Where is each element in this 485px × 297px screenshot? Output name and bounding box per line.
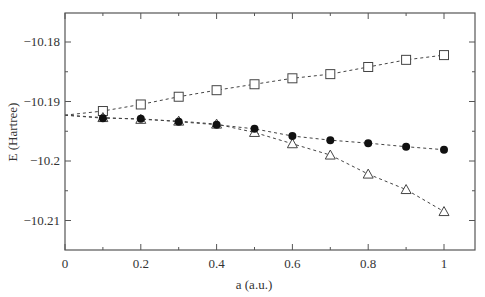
square-marker <box>288 74 297 83</box>
y-tick-label: −10.2 <box>30 153 60 168</box>
x-tick-label: 0.8 <box>360 256 376 271</box>
energy-vs-a-chart: 00.20.40.60.81−10.18−10.19−10.2−10.21 a … <box>0 0 485 297</box>
square-marker <box>136 100 145 109</box>
series-layer <box>65 51 449 216</box>
circle-marker <box>288 132 296 140</box>
x-tick-label: 1 <box>441 256 448 271</box>
square-marker <box>364 62 373 71</box>
circle-marker <box>99 114 107 122</box>
triangle-marker <box>363 169 373 178</box>
x-tick-label: 0 <box>62 256 69 271</box>
y-tick-label: −10.21 <box>23 213 60 228</box>
circle-marker <box>175 118 183 126</box>
circle-marker <box>402 143 410 151</box>
triangle-marker <box>325 150 335 159</box>
y-tick-label: −10.18 <box>23 34 60 49</box>
square-marker <box>250 80 259 89</box>
circle-marker <box>213 121 221 129</box>
square-marker <box>326 70 335 79</box>
square-marker <box>174 92 183 101</box>
series-square-open <box>65 51 449 116</box>
triangle-marker <box>287 139 297 148</box>
circle-marker <box>440 146 448 154</box>
y-axis-label: E (Hartree) <box>5 103 20 162</box>
x-tick-label: 0.2 <box>133 256 149 271</box>
circle-marker <box>364 139 372 147</box>
circle-marker <box>137 115 145 123</box>
x-tick-label: 0.6 <box>284 256 301 271</box>
triangle-marker <box>401 185 411 194</box>
x-tick-label: 0.4 <box>208 256 225 271</box>
triangle-marker <box>439 207 449 216</box>
square-marker <box>440 51 449 60</box>
circle-marker <box>251 125 259 133</box>
square-marker <box>402 55 411 64</box>
circle-marker <box>326 136 334 144</box>
x-axis-label: a (a.u.) <box>236 277 272 292</box>
y-tick-label: −10.19 <box>23 94 60 109</box>
square-marker <box>212 86 221 95</box>
tick-labels: 00.20.40.60.81−10.18−10.19−10.2−10.21 <box>23 34 447 271</box>
